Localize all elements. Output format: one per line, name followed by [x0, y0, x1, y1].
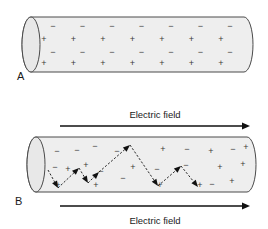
positive-charge: +	[93, 180, 98, 190]
positive-charge: +	[71, 58, 76, 68]
positive-charge: +	[240, 159, 245, 169]
positive-charge: +	[130, 58, 135, 68]
negative-charge: −	[114, 146, 119, 156]
positive-charge: +	[218, 58, 223, 68]
electric-field-label-bottom: Electric field	[129, 215, 180, 226]
positive-charge: +	[159, 34, 164, 44]
positive-charge: +	[71, 34, 76, 44]
panel-label-b: B	[15, 195, 22, 207]
negative-charge: −	[227, 47, 232, 57]
arrow-head	[242, 123, 250, 130]
negative-charge: −	[154, 164, 159, 174]
positive-charge: +	[100, 58, 105, 68]
figure-canvas: −−−−−−−+++++++−−−−−−−+++++++ A Electric …	[0, 0, 268, 229]
electric-field-arrow-top	[60, 123, 250, 130]
panel-b: Electric field −−−−+−+−+−++−+−−++−++++−+…	[15, 109, 256, 226]
negative-charge: −	[74, 145, 79, 155]
negative-charge: −	[139, 47, 144, 57]
positive-charge: +	[218, 34, 223, 44]
negative-charge: −	[109, 21, 114, 31]
positive-charge: +	[41, 58, 46, 68]
positive-charge: +	[65, 164, 70, 174]
negative-charge: −	[168, 47, 173, 57]
positive-charge: +	[208, 146, 213, 156]
positive-charge: +	[189, 34, 194, 44]
negative-charge: −	[183, 160, 188, 170]
physics-figure: −−−−−−−+++++++−−−−−−−+++++++ A Electric …	[0, 0, 268, 229]
negative-charge: −	[80, 47, 85, 57]
electric-field-arrow-bottom	[60, 203, 250, 210]
positive-charge: +	[217, 162, 222, 172]
electric-field-label-top: Electric field	[129, 109, 180, 120]
panel-label-a: A	[17, 70, 25, 82]
negative-charge: −	[198, 47, 203, 57]
positive-charge: +	[100, 34, 105, 44]
negative-charge: −	[52, 162, 57, 172]
negative-charge: −	[227, 21, 232, 31]
negative-charge: −	[50, 47, 55, 57]
negative-charge: −	[54, 146, 59, 156]
negative-charge: −	[120, 173, 125, 183]
negative-charge: −	[80, 21, 85, 31]
arrow-head	[242, 203, 250, 210]
negative-charge: −	[50, 21, 55, 31]
positive-charge: +	[83, 160, 88, 170]
positive-charge: +	[159, 58, 164, 68]
negative-charge: −	[198, 21, 203, 31]
negative-charge: −	[230, 144, 235, 154]
positive-charge: +	[160, 144, 165, 154]
positive-charge: +	[130, 34, 135, 44]
cylinder-cap-b	[27, 137, 45, 192]
positive-charge: +	[130, 162, 135, 172]
negative-charge: −	[109, 47, 114, 57]
negative-charge: −	[209, 179, 214, 189]
positive-charge: +	[197, 180, 202, 190]
negative-charge: −	[168, 21, 173, 31]
positive-charge: +	[41, 34, 46, 44]
negative-charge: −	[184, 144, 189, 154]
positive-charge: +	[189, 58, 194, 68]
panel-a: −−−−−−−+++++++−−−−−−−+++++++ A	[17, 17, 253, 82]
negative-charge: −	[139, 21, 144, 31]
negative-charge: −	[92, 141, 97, 151]
positive-charge: +	[243, 142, 248, 152]
positive-charge: +	[229, 176, 234, 186]
cylinder-cap-a	[22, 17, 40, 72]
